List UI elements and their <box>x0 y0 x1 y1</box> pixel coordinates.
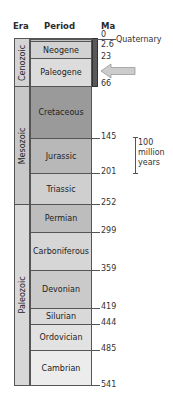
tick-485 <box>92 350 100 351</box>
period-cretaceous: Cretaceous <box>30 86 92 139</box>
tick-359 <box>92 270 100 271</box>
period-label-silurian: Silurian <box>46 312 76 321</box>
ma-label-299: 299 <box>101 227 116 235</box>
era-label-mesozoic: Mesozoic <box>18 127 27 164</box>
era-paleozoic: Paleozoic <box>14 204 30 386</box>
scale-line-1: 100 <box>138 138 165 148</box>
era-label-paleozoic: Paleozoic <box>18 276 27 313</box>
period-label-neogene: Neogene <box>43 46 79 55</box>
tick-145 <box>92 138 100 139</box>
period-label-cretaceous: Cretaceous <box>38 108 83 117</box>
period-label-ordovician: Ordovician <box>40 333 83 342</box>
era-header: Era <box>13 21 29 31</box>
tick-201 <box>92 173 100 174</box>
period-label-carboniferous: Carboniferous <box>33 247 89 256</box>
period-devonian: Devonian <box>30 270 92 309</box>
period-permian: Permian <box>30 204 92 233</box>
period-label-paleogene: Paleogene <box>40 68 81 77</box>
ma-label-485: 485 <box>101 345 116 353</box>
period-neogene: Neogene <box>30 41 92 59</box>
period-header: Period <box>44 21 75 31</box>
cenozoic-highlight-bar <box>92 38 98 87</box>
ma-label-2.6: 2.6 <box>101 41 114 49</box>
scale-line-2: million <box>138 148 165 158</box>
era-mesozoic: Mesozoic <box>14 86 30 205</box>
tick-444 <box>92 324 100 325</box>
period-carboniferous: Carboniferous <box>30 232 92 271</box>
ma-label-23: 23 <box>101 53 111 61</box>
period-label-triassic: Triassic <box>46 185 75 194</box>
tick-541 <box>92 385 100 386</box>
ma-label-541: 541 <box>101 381 116 389</box>
era-label-cenozoic: Cenozoic <box>18 44 27 80</box>
period-label-cambrian: Cambrian <box>42 364 81 373</box>
period-jurassic: Jurassic <box>30 138 92 174</box>
period-ordovician: Ordovician <box>30 324 92 351</box>
period-triassic: Triassic <box>30 173 92 205</box>
scale-bar-label: 100 million years <box>138 138 165 168</box>
ma-label-201: 201 <box>101 168 116 176</box>
period-label-permian: Permian <box>45 214 78 223</box>
period-paleogene: Paleogene <box>30 58 92 87</box>
ma-label-444: 444 <box>101 319 116 327</box>
scale-bracket <box>135 137 136 174</box>
ma-label-145: 145 <box>101 133 116 141</box>
quaternary-label: Quaternary <box>116 36 161 44</box>
period-cambrian: Cambrian <box>30 350 92 386</box>
tick-419 <box>92 308 100 309</box>
scale-line-3: years <box>138 158 165 168</box>
ma-label-359: 359 <box>101 265 116 273</box>
scale-bracket-bottom <box>133 173 138 174</box>
period-label-devonian: Devonian <box>42 285 80 294</box>
tick-252 <box>14 204 100 205</box>
tick-299 <box>92 232 100 233</box>
ma-label-66: 66 <box>101 80 111 88</box>
ma-label-0: 0 <box>101 31 106 39</box>
period-silurian: Silurian <box>30 308 92 325</box>
left-arrow-icon <box>100 63 136 79</box>
era-cenozoic: Cenozoic <box>14 38 30 87</box>
period-label-jurassic: Jurassic <box>46 152 77 161</box>
ma-label-252: 252 <box>101 199 116 207</box>
ma-label-419: 419 <box>101 303 116 311</box>
